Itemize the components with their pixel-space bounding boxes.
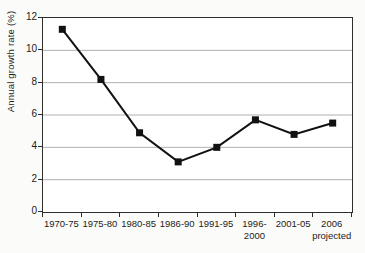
y-tick-label: 0 — [15, 205, 37, 217]
x-tick-mark — [274, 213, 275, 217]
y-tick-mark — [38, 17, 42, 18]
data-point-marker — [329, 120, 336, 127]
y-axis-title: Annual growth rate (%) — [5, 6, 16, 118]
y-tick-label: 12 — [15, 11, 37, 23]
series-line — [62, 29, 332, 162]
y-tick-mark — [38, 114, 42, 115]
growth-rate-line-chart: Annual growth rate (%) 024681012 1970-75… — [0, 0, 365, 253]
plot-area — [42, 17, 353, 213]
x-tick-mark — [312, 213, 313, 217]
data-point-marker — [175, 158, 182, 165]
y-tick-mark — [38, 179, 42, 180]
line-series-canvas — [43, 18, 352, 212]
x-tick-mark — [197, 213, 198, 217]
y-tick-mark — [38, 146, 42, 147]
data-point-marker — [59, 26, 66, 33]
y-tick-mark — [38, 82, 42, 83]
y-tick-mark — [38, 211, 42, 212]
x-tick-mark — [235, 213, 236, 217]
x-tick-mark — [119, 213, 120, 217]
x-tick-mark — [81, 213, 82, 217]
data-point-marker — [97, 76, 104, 83]
x-tick-mark — [351, 213, 352, 217]
x-tick-mark — [42, 213, 43, 217]
x-tick-mark — [158, 213, 159, 217]
y-tick-label: 8 — [15, 76, 37, 88]
data-point-marker — [252, 116, 259, 123]
data-point-marker — [213, 144, 220, 151]
y-tick-label: 10 — [15, 43, 37, 55]
y-tick-label: 4 — [15, 140, 37, 152]
y-tick-label: 6 — [15, 108, 37, 120]
y-tick-mark — [38, 49, 42, 50]
data-point-marker — [136, 129, 143, 136]
y-tick-label: 2 — [15, 173, 37, 185]
x-tick-label: 2006 projected — [309, 218, 355, 241]
data-point-marker — [291, 131, 298, 138]
